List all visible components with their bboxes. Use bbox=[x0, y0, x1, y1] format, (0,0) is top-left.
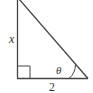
hypotenuse bbox=[19, 0, 88, 79]
label-x: x bbox=[8, 32, 15, 46]
label-base: 2 bbox=[49, 80, 55, 93]
right-angle-marker bbox=[18, 66, 31, 79]
right-triangle-figure: x θ 2 bbox=[0, 0, 93, 93]
angle-arc bbox=[69, 64, 76, 78]
triangle-diagram: x θ 2 bbox=[0, 0, 93, 93]
label-theta: θ bbox=[56, 64, 62, 76]
